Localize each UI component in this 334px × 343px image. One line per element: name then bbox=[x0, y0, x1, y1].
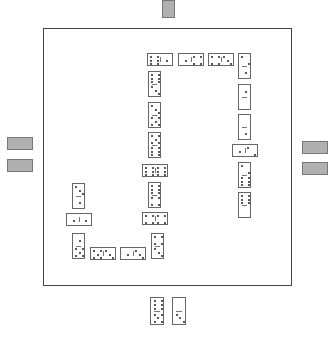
pip-icon bbox=[151, 74, 153, 76]
pip-icon bbox=[157, 215, 159, 217]
pip-icon bbox=[248, 63, 250, 65]
pip-icon bbox=[157, 63, 159, 65]
pips-3 bbox=[152, 246, 163, 258]
pip-icon bbox=[158, 197, 160, 199]
pip-icon bbox=[105, 250, 107, 252]
pip-icon bbox=[154, 243, 156, 245]
pip-icon bbox=[166, 60, 168, 62]
domino-tile-4-4 bbox=[142, 212, 168, 225]
pips-0 bbox=[239, 97, 250, 109]
pip-icon bbox=[161, 236, 163, 238]
pip-icon bbox=[157, 171, 159, 173]
pips-4 bbox=[149, 195, 160, 207]
pip-icon bbox=[157, 174, 159, 176]
pips-1 bbox=[239, 85, 250, 97]
pip-icon bbox=[142, 257, 144, 259]
pip-icon bbox=[127, 254, 129, 256]
pip-icon bbox=[145, 222, 147, 224]
domino-tile-1-4 bbox=[178, 53, 204, 66]
pip-icon bbox=[75, 255, 77, 257]
pips-0 bbox=[239, 115, 250, 127]
pip-icon bbox=[151, 117, 153, 119]
pip-icon bbox=[100, 257, 102, 259]
pip-icon bbox=[158, 117, 160, 119]
pip-icon bbox=[241, 195, 243, 197]
pip-icon bbox=[151, 204, 153, 206]
pips-1 bbox=[239, 127, 250, 139]
pip-icon bbox=[158, 74, 160, 76]
pip-icon bbox=[183, 321, 185, 323]
pip-icon bbox=[157, 317, 159, 319]
pips-1 bbox=[233, 145, 245, 156]
pips-6 bbox=[239, 175, 250, 187]
pip-icon bbox=[145, 167, 147, 169]
pips-4 bbox=[152, 234, 163, 246]
pip-icon bbox=[248, 172, 250, 174]
pip-icon bbox=[164, 171, 166, 173]
pip-icon bbox=[248, 177, 250, 179]
pip-icon bbox=[185, 60, 187, 62]
pip-icon bbox=[158, 112, 160, 114]
pip-icon bbox=[164, 222, 166, 224]
pips-1 bbox=[67, 214, 79, 225]
pip-icon bbox=[152, 174, 154, 176]
pip-icon bbox=[239, 151, 241, 153]
pip-icon bbox=[247, 147, 249, 149]
pip-icon bbox=[82, 248, 84, 250]
domino-tile-6-1 bbox=[147, 53, 173, 66]
pip-icon bbox=[158, 252, 160, 254]
pip-icon bbox=[154, 300, 156, 302]
pip-icon bbox=[158, 142, 160, 144]
pips-5 bbox=[149, 133, 160, 145]
player-hand-tile-2[interactable] bbox=[172, 297, 186, 325]
pip-icon bbox=[97, 254, 99, 256]
pip-icon bbox=[79, 240, 81, 242]
player-hand-tile-1[interactable] bbox=[150, 297, 164, 325]
pip-icon bbox=[145, 215, 147, 217]
domino-tile-4-3 bbox=[208, 53, 234, 66]
pips-6 bbox=[239, 193, 250, 205]
opponent-right-hidden-tile-2 bbox=[302, 162, 328, 175]
domino-tile-6-3 bbox=[148, 71, 161, 97]
domino-tile-1-3 bbox=[120, 247, 146, 260]
pips-5 bbox=[151, 311, 163, 324]
pip-icon bbox=[200, 63, 202, 65]
pip-icon bbox=[245, 91, 247, 93]
pips-1 bbox=[179, 54, 191, 65]
pip-icon bbox=[157, 56, 159, 58]
pip-icon bbox=[245, 133, 247, 135]
pip-icon bbox=[73, 220, 75, 222]
pips-5 bbox=[91, 248, 103, 259]
pip-icon bbox=[157, 222, 159, 224]
pip-icon bbox=[93, 250, 95, 252]
pips-6 bbox=[149, 183, 160, 195]
pip-icon bbox=[139, 254, 141, 256]
pip-icon bbox=[154, 314, 156, 316]
pip-icon bbox=[152, 215, 154, 217]
pip-icon bbox=[218, 56, 220, 58]
pip-icon bbox=[75, 248, 77, 250]
pip-icon bbox=[154, 236, 156, 238]
pips-3 bbox=[221, 54, 233, 65]
pip-icon bbox=[248, 199, 250, 201]
pip-icon bbox=[154, 248, 156, 250]
pip-icon bbox=[158, 93, 160, 95]
pip-icon bbox=[154, 321, 156, 323]
domino-tile-6-4 bbox=[148, 182, 161, 208]
pip-icon bbox=[164, 174, 166, 176]
domino-tile-6-6 bbox=[142, 164, 168, 177]
pip-icon bbox=[135, 250, 137, 252]
pip-icon bbox=[150, 56, 152, 58]
pip-icon bbox=[193, 56, 195, 58]
pips-4 bbox=[155, 213, 167, 224]
domino-tile-2-6 bbox=[238, 162, 251, 188]
pip-icon bbox=[158, 147, 160, 149]
domino-tile-1-0 bbox=[238, 84, 251, 110]
opponent-top-hidden-tile bbox=[162, 0, 175, 18]
pips-6 bbox=[149, 145, 160, 157]
pip-icon bbox=[151, 185, 153, 187]
pip-icon bbox=[75, 186, 77, 188]
pips-1 bbox=[239, 66, 250, 78]
pip-icon bbox=[155, 90, 157, 92]
pip-icon bbox=[245, 72, 247, 74]
